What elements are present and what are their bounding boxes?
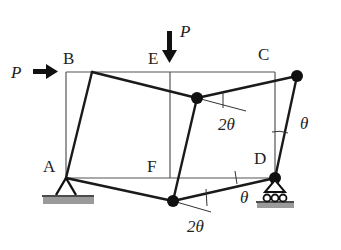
node-E-displaced: [191, 92, 203, 104]
angle-label-F: 2θ: [187, 217, 204, 236]
label-E: E: [148, 49, 158, 68]
label-B: B: [63, 49, 74, 68]
label-D: D: [254, 149, 266, 168]
vertical-load-arrow: [162, 31, 177, 63]
angle-label-E: 2θ: [218, 115, 235, 134]
label-A: A: [43, 157, 56, 176]
angle-label-C: θ: [300, 114, 308, 133]
horizontal-load-arrow: [33, 64, 58, 79]
node-F-displaced: [167, 195, 179, 207]
angle-markers: [173, 92, 288, 212]
deformed-mechanism: [66, 72, 297, 201]
label-F: F: [147, 157, 156, 176]
node-C-displaced: [291, 70, 303, 82]
load-label-vertical: P: [179, 22, 190, 41]
label-C: C: [258, 45, 269, 64]
mechanism-diagram: P P B E C A F D 2θ θ θ 2θ: [0, 0, 341, 250]
roller-support-D: [256, 180, 294, 208]
load-label-horizontal: P: [10, 63, 21, 82]
angle-label-D: θ: [240, 188, 248, 207]
